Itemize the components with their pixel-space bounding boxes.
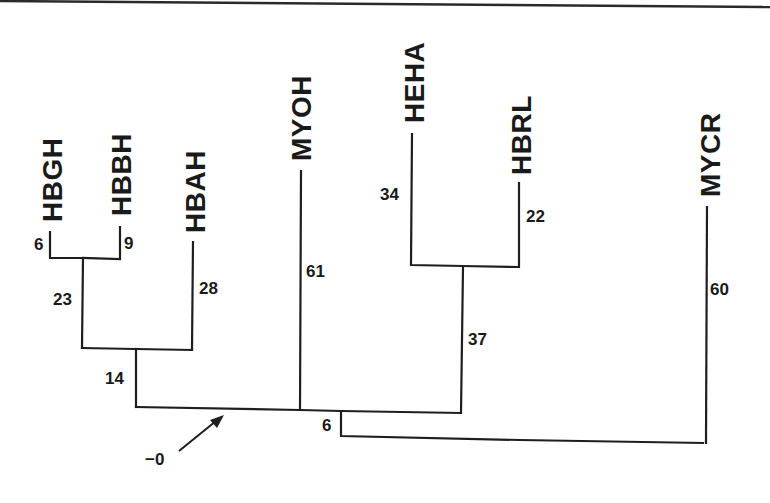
branch-hbgh <box>50 232 83 258</box>
top-border <box>0 1 770 7</box>
branch-length-hbgh-hbbh: 23 <box>53 290 72 309</box>
branch-heha-hbrl <box>461 267 463 413</box>
branch-myoh <box>300 171 301 410</box>
branch-length-root-mycr: 6 <box>322 416 331 435</box>
arrow-icon <box>179 415 224 451</box>
taxon-label-heha: HEHA <box>399 42 430 123</box>
taxon-label-hbah: HBAH <box>180 150 211 233</box>
taxon-label-hbgh: HBGH <box>37 138 68 222</box>
taxon-label-mycr: MYCR <box>695 113 726 197</box>
branch-hbah <box>192 242 193 350</box>
branch-length-hbrl: 22 <box>526 207 545 226</box>
taxon-label-myoh: MYOH <box>286 75 317 161</box>
branch-hbgh-hbbh <box>82 258 83 348</box>
taxon-label-hbbh: HBBH <box>106 133 137 216</box>
branch-length-hbgh: 6 <box>34 235 43 254</box>
phylogenetic-tree: HBGH HBBH HBAH MYOH HEHA HBRL MYCR 6 9 2… <box>0 0 770 503</box>
taxon-label-hbrl: HBRL <box>506 95 537 175</box>
branch-hbbh <box>83 227 120 259</box>
branch-hbrl <box>462 183 519 267</box>
branch-length-heha-hbrl: 37 <box>468 330 487 349</box>
root-horizontal <box>136 407 461 413</box>
branch-length-hbbh: 9 <box>124 234 133 253</box>
root-annotation-label: −0 <box>145 450 164 469</box>
branch-length-hb-clade: 14 <box>105 369 124 388</box>
branch-length-mycr: 60 <box>710 280 729 299</box>
branch-mycr <box>706 207 707 443</box>
branch-root-mycr <box>341 411 703 443</box>
branch-length-heha: 34 <box>380 185 399 204</box>
branch-heha <box>411 134 462 266</box>
branch-length-myoh: 61 <box>306 262 325 281</box>
branch-length-hbah: 28 <box>199 279 218 298</box>
